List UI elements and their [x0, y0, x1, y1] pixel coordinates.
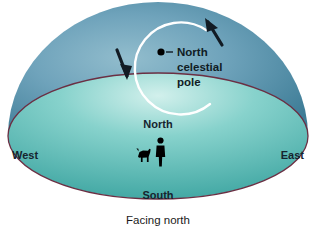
horizon-ground-plane: [8, 73, 308, 199]
pole-label-line-3: pole: [177, 76, 201, 88]
pole-label-line-1: North: [177, 46, 208, 58]
celestial-pole-dot-icon: [157, 48, 164, 55]
celestial-sphere-diagram: North celestial pole North West East Sou…: [0, 0, 316, 232]
figure-caption: Facing north: [126, 214, 190, 226]
direction-label-east: East: [281, 149, 305, 161]
direction-label-north: North: [143, 118, 173, 130]
direction-label-west: West: [12, 149, 38, 161]
pole-label-line-2: celestial: [177, 61, 222, 73]
direction-label-south: South: [142, 189, 173, 201]
sky-dome-illustration: North celestial pole North West East Sou…: [0, 0, 316, 232]
